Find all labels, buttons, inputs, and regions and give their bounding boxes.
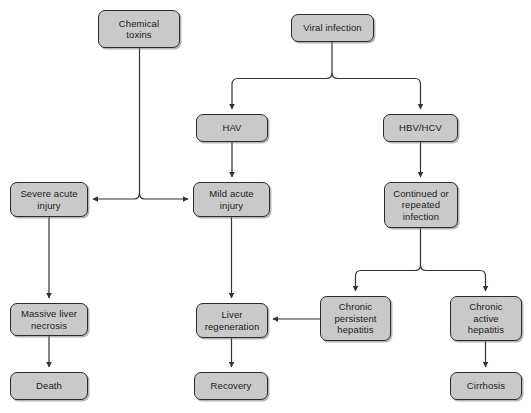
edge-continued-repeated-infection-trunk xyxy=(415,228,421,271)
node-chemical-toxins[interactable]: Chemical toxins xyxy=(98,10,180,48)
node-label-viral-infection: Viral infection xyxy=(300,22,364,34)
node-label-continued-repeated-infection: Continued or repeated infection xyxy=(390,188,452,223)
node-label-chronic-active-hepatitis: Chronic active hepatitis xyxy=(465,301,507,336)
node-liver-regeneration[interactable]: Liver regeneration xyxy=(196,303,268,338)
node-label-severe-acute-injury: Severe acute injury xyxy=(17,188,80,211)
node-continued-repeated-infection[interactable]: Continued or repeated infection xyxy=(384,182,458,228)
node-massive-liver-necrosis[interactable]: Massive liver necrosis xyxy=(10,303,88,336)
node-cirrhosis[interactable]: Cirrhosis xyxy=(450,372,522,400)
node-label-mild-acute-injury: Mild acute injury xyxy=(206,188,256,211)
node-label-hav: HAV xyxy=(219,122,244,134)
node-death[interactable]: Death xyxy=(10,372,88,400)
node-chronic-persistent-hepatitis[interactable]: Chronic persistent hepatitis xyxy=(320,296,391,341)
edge-viral-infection-to-hbv-hcv xyxy=(338,79,421,110)
node-label-chronic-persistent-hepatitis: Chronic persistent hepatitis xyxy=(331,301,379,336)
node-label-death: Death xyxy=(33,380,65,392)
edge-viral-infection-trunk xyxy=(326,42,332,79)
node-mild-acute-injury[interactable]: Mild acute injury xyxy=(193,182,270,217)
flowchart-canvas: Chemical toxins Viral infection HAV HBV/… xyxy=(0,0,531,413)
edge-continued-repeated-infection-to-chronic-active-hepatitis xyxy=(426,271,486,292)
node-hbv-hcv[interactable]: HBV/HCV xyxy=(383,114,458,142)
node-label-cirrhosis: Cirrhosis xyxy=(464,380,508,392)
node-label-hbv-hcv: HBV/HCV xyxy=(396,122,445,134)
edge-chemical-toxins-trunk-right xyxy=(140,193,146,199)
edge-continued-repeated-infection-to-chronic-persistent-hepatitis xyxy=(356,271,416,292)
node-recovery[interactable]: Recovery xyxy=(194,372,268,400)
node-label-chemical-toxins: Chemical toxins xyxy=(116,18,162,41)
node-label-liver-regeneration: Liver regeneration xyxy=(202,309,263,332)
node-label-massive-liver-necrosis: Massive liver necrosis xyxy=(18,308,80,331)
node-viral-infection[interactable]: Viral infection xyxy=(291,14,374,42)
node-chronic-active-hepatitis[interactable]: Chronic active hepatitis xyxy=(450,296,522,341)
edge-continued-repeated-infection-trunk-right xyxy=(421,265,427,271)
edge-viral-infection-trunk-right xyxy=(332,73,338,79)
node-severe-acute-injury[interactable]: Severe acute injury xyxy=(10,182,88,217)
node-hav[interactable]: HAV xyxy=(196,114,268,142)
edge-chemical-toxins-trunk xyxy=(134,48,140,199)
node-label-recovery: Recovery xyxy=(208,380,255,392)
edge-viral-infection-to-hav xyxy=(232,79,326,110)
